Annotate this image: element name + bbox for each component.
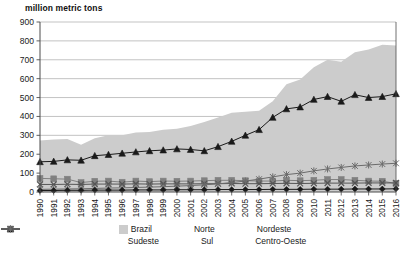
legend-row-1: Brazil Norte Nordeste [110, 224, 301, 234]
svg-text:2002: 2002 [200, 199, 209, 218]
legend-item-nordeste[interactable]: Nordeste [233, 224, 292, 234]
svg-text:2004: 2004 [228, 199, 237, 218]
chart-plot: 0100200300400500600700800900199019911992… [0, 0, 410, 230]
svg-text:1999: 1999 [159, 199, 168, 218]
brazil-area-swatch-icon [119, 225, 128, 234]
svg-text:2003: 2003 [214, 199, 223, 218]
svg-text:100: 100 [20, 168, 34, 178]
svg-text:1998: 1998 [146, 199, 155, 218]
svg-text:2008: 2008 [282, 199, 291, 218]
svg-text:1994: 1994 [91, 199, 100, 218]
legend-row-2: Sudeste Sul Centro-Oeste [95, 236, 316, 246]
svg-text:2011: 2011 [324, 199, 333, 217]
svg-text:2015: 2015 [378, 199, 387, 218]
legend-label-norte: Norte [194, 224, 215, 234]
legend-label-sul: Sul [201, 236, 213, 246]
svg-text:1993: 1993 [77, 199, 86, 218]
diamond-marker-icon [170, 224, 191, 234]
x-marker-icon [177, 236, 198, 246]
svg-text:500: 500 [20, 93, 34, 103]
svg-text:2006: 2006 [255, 199, 264, 218]
legend-item-brazil[interactable]: Brazil [119, 224, 152, 234]
square-marker-icon [233, 224, 254, 234]
svg-text:1996: 1996 [118, 199, 127, 218]
legend-item-norte[interactable]: Norte [170, 224, 215, 234]
svg-text:400: 400 [20, 111, 34, 121]
svg-text:2007: 2007 [269, 199, 278, 218]
asterisk-marker-icon [231, 236, 252, 246]
svg-text:300: 300 [20, 130, 34, 140]
svg-text:2016: 2016 [392, 199, 401, 218]
chart-container: million metric tons 01002003004005006007… [0, 0, 410, 261]
svg-text:600: 600 [20, 74, 34, 84]
svg-text:1991: 1991 [50, 199, 59, 218]
svg-text:2001: 2001 [187, 199, 196, 218]
svg-text:2000: 2000 [173, 199, 182, 218]
legend-label-nordeste: Nordeste [257, 224, 292, 234]
legend-label-centro-oeste: Centro-Oeste [255, 236, 306, 246]
svg-text:800: 800 [20, 36, 34, 46]
svg-text:2009: 2009 [296, 199, 305, 218]
legend-item-centro-oeste[interactable]: Centro-Oeste [231, 236, 306, 246]
triangle-marker-icon [104, 236, 125, 246]
chart-legend: Brazil Norte Nordeste Sudeste Sul C [0, 224, 410, 246]
svg-text:1992: 1992 [63, 199, 72, 218]
svg-text:200: 200 [20, 149, 34, 159]
svg-text:2013: 2013 [351, 199, 360, 218]
svg-text:2005: 2005 [241, 199, 250, 218]
svg-text:900: 900 [20, 17, 34, 27]
svg-text:2014: 2014 [365, 199, 374, 218]
svg-text:1995: 1995 [104, 199, 113, 218]
legend-item-sul[interactable]: Sul [177, 236, 213, 246]
svg-text:1990: 1990 [36, 199, 45, 218]
svg-text:2010: 2010 [310, 199, 319, 218]
legend-label-brazil: Brazil [131, 224, 152, 234]
svg-text:2012: 2012 [337, 199, 346, 218]
legend-item-sudeste[interactable]: Sudeste [104, 236, 159, 246]
svg-text:0: 0 [29, 187, 34, 197]
svg-text:1997: 1997 [132, 199, 141, 218]
legend-label-sudeste: Sudeste [128, 236, 159, 246]
svg-text:700: 700 [20, 55, 34, 65]
